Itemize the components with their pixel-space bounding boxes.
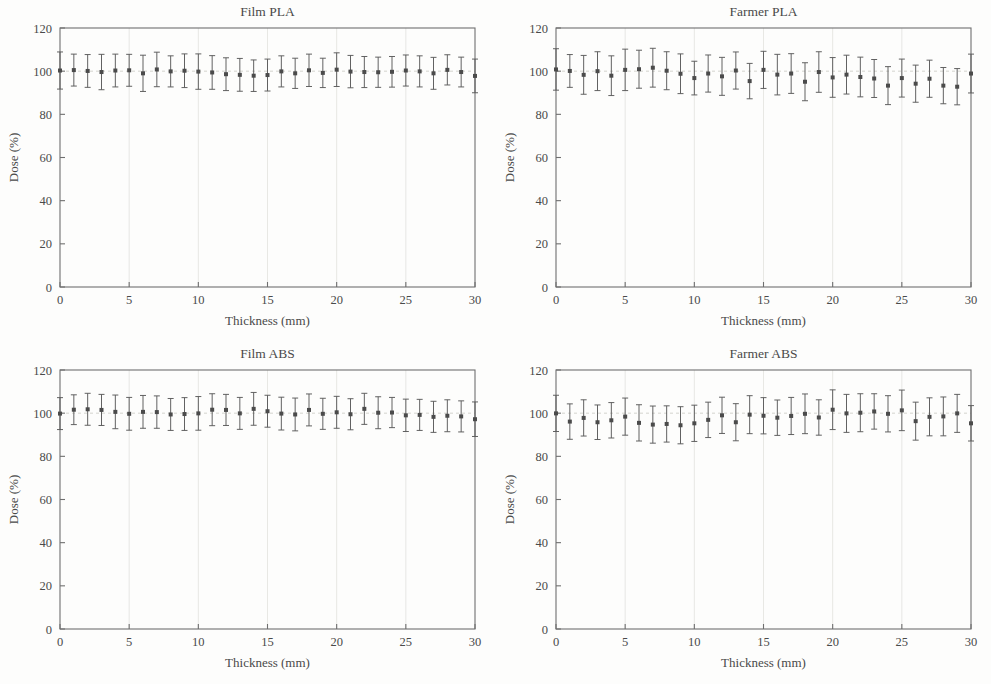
data-point-marker [404,413,408,417]
data-point-marker [418,69,422,73]
data-point-marker [886,84,890,88]
data-point-marker [210,70,214,74]
data-point-marker [775,73,779,77]
data-point-marker [651,423,655,427]
x-tick-label: 0 [553,635,559,649]
plot-farmer-abs: 051015202530020406080100120Farmer ABSThi… [496,342,991,684]
data-point-marker [748,79,752,83]
x-tick-label: 5 [622,635,628,649]
data-point-marker [224,408,228,412]
y-tick-label: 40 [40,194,53,208]
data-point-marker [955,411,959,415]
data-point-marker [554,411,558,415]
data-point-marker [748,413,752,417]
data-point-marker [196,70,200,74]
y-tick-label: 20 [536,237,549,251]
data-point-marker [858,75,862,79]
x-tick-label: 25 [896,293,909,307]
y-tick-label: 0 [542,623,548,637]
data-point-marker [349,70,353,74]
data-point-marker [141,410,145,414]
x-tick-label: 20 [330,635,343,649]
data-point-marker [86,407,90,411]
y-tick-label: 20 [40,579,53,593]
data-point-marker [554,67,558,71]
x-tick-label: 10 [688,293,701,307]
x-tick-label: 5 [126,635,132,649]
data-point-marker [183,69,187,73]
data-point-marker [679,72,683,76]
data-point-marker [914,82,918,86]
x-tick-label: 15 [261,293,274,307]
y-tick-label: 40 [40,536,53,550]
data-point-marker [335,68,339,72]
data-point-marker [349,412,353,416]
data-point-marker [100,70,104,74]
x-tick-label: 5 [622,293,628,307]
data-point-marker [224,72,228,76]
data-point-marker [914,419,918,423]
data-point-marker [845,73,849,77]
x-tick-label: 10 [192,635,205,649]
x-tick-label: 30 [469,635,482,649]
data-point-marker [390,70,394,74]
data-point-marker [127,412,131,416]
x-axis-label: Thickness (mm) [225,655,310,670]
data-point-marker [872,409,876,413]
data-point-marker [969,72,973,76]
panel-film-pla: 051015202530020406080100120Film PLAThick… [0,0,495,342]
x-tick-label: 0 [553,293,559,307]
data-point-marker [582,73,586,77]
data-point-marker [279,412,283,416]
y-axis-label: Dose (%) [502,133,517,182]
x-axis-ticks: 051015202530 [553,282,977,307]
y-tick-label: 100 [529,407,548,421]
x-axis-label: Thickness (mm) [721,655,806,670]
data-point-marker [734,69,738,73]
panel-farmer-pla: 051015202530020406080100120Farmer PLAThi… [496,0,991,342]
data-point-marker [941,84,945,88]
y-tick-label: 60 [40,493,53,507]
data-point-marker [432,71,436,75]
data-point-marker [473,74,477,78]
x-axis-ticks: 051015202530 [553,624,977,649]
data-point-marker [734,420,738,424]
plot-film-pla: 051015202530020406080100120Film PLAThick… [0,0,495,342]
y-tick-label: 80 [40,108,53,122]
x-tick-label: 20 [826,293,839,307]
x-axis-ticks: 051015202530 [57,624,481,649]
data-point-marker [665,422,669,426]
data-point-marker [941,414,945,418]
x-tick-label: 30 [965,635,978,649]
y-tick-label: 80 [536,450,549,464]
data-point-marker [252,74,256,78]
data-point-marker [321,412,325,416]
y-tick-label: 0 [46,623,52,637]
y-tick-label: 120 [529,364,548,378]
x-tick-label: 5 [126,293,132,307]
data-point-marker [335,410,339,414]
data-point-marker [141,71,145,75]
y-tick-label: 100 [33,65,52,79]
data-point-marker [872,77,876,81]
data-point-marker [568,69,572,73]
data-point-marker [609,418,613,422]
data-point-marker [845,411,849,415]
data-point-marker [445,414,449,418]
figure-four-panel-dose-vs-thickness: 051015202530020406080100120Film PLAThick… [0,0,991,684]
data-point-marker [293,412,297,416]
data-point-marker [762,68,766,72]
data-point-marker [692,421,696,425]
y-tick-label: 80 [536,108,549,122]
data-point-marker [266,409,270,413]
data-point-marker [900,408,904,412]
x-tick-label: 20 [826,635,839,649]
data-point-marker [623,68,627,72]
data-point-marker [238,411,242,415]
data-point-marker [376,70,380,74]
plot-farmer-pla: 051015202530020406080100120Farmer PLAThi… [496,0,991,342]
data-point-marker [321,71,325,75]
data-point-marker [58,412,62,416]
x-tick-label: 10 [192,293,205,307]
data-point-marker [651,66,655,70]
